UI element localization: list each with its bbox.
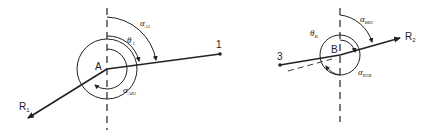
vector-label-r2: R2 (405, 31, 416, 43)
angle-label-alpha-br2: αBR2 (360, 14, 374, 25)
angle-label-alpha-a1: αA1 (140, 18, 150, 29)
point-label-b: B (331, 44, 338, 55)
angle-label-alpha-ar1: αAR1 (123, 85, 136, 96)
vector-angle-diagram: A 1 R1 αA1 θA αAR1 B 3 R2 (0, 0, 434, 136)
angle-label-theta-a: θA (127, 35, 135, 46)
angle-label-alpha-r2b: αR2B (358, 67, 371, 78)
point-label-a: A (95, 61, 102, 72)
angle-arc-theta-b (340, 40, 355, 52)
point-3 (278, 63, 282, 67)
vector-r2 (340, 38, 400, 55)
segment-3-b (280, 55, 340, 65)
segment-a-1 (107, 54, 220, 69)
point-1 (218, 52, 222, 56)
vector-r1 (28, 69, 107, 118)
angle-label-theta-b: θB (310, 28, 317, 39)
diagram-left: A 1 R1 αA1 θA αAR1 (19, 8, 222, 130)
endpoint-label-3: 3 (277, 51, 283, 62)
vector-label-r1: R1 (19, 101, 30, 113)
diagram-right: B 3 R2 αBR2 θB αR2B (277, 8, 416, 122)
endpoint-label-1: 1 (216, 39, 222, 50)
